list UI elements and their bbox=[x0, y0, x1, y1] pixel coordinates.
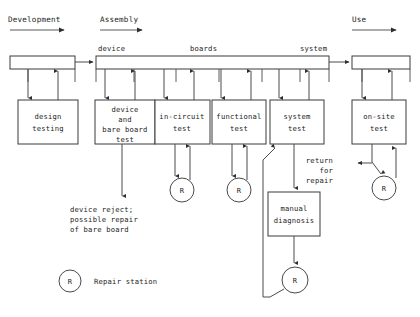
device-reject-note: device reject; possible repair of bare b… bbox=[70, 144, 138, 234]
flow-diagram-canvas: Development Assembly Use device boards s… bbox=[0, 0, 420, 317]
arrow-on-site-to-repair bbox=[372, 144, 381, 174]
return-for-repair-line-0: return bbox=[306, 156, 333, 165]
bar-box-connectors bbox=[28, 69, 392, 100]
repair-node-system-label: R bbox=[293, 277, 298, 285]
phase-label-development: Development bbox=[8, 15, 61, 24]
device-bare-board-label-3: test bbox=[116, 135, 134, 144]
functional-test-box: functional test bbox=[212, 100, 266, 144]
phase-headings: Development Assembly Use bbox=[8, 15, 396, 30]
process-bars bbox=[10, 56, 410, 82]
device-bare-board-label-1: and bbox=[118, 115, 132, 124]
on-site-test-label-1: test bbox=[370, 124, 388, 133]
system-test-box: system test bbox=[270, 100, 324, 144]
device-reject-line-0: device reject; bbox=[70, 205, 133, 214]
bar-label-boards: boards bbox=[190, 44, 217, 53]
device-bare-board-label-2: bare board bbox=[102, 125, 147, 134]
system-test-label-0: system bbox=[283, 112, 310, 121]
on-site-test-box: on-site test bbox=[352, 100, 406, 144]
legend-repair-station: R Repair station bbox=[59, 270, 157, 292]
bar-labels: device boards system bbox=[98, 44, 327, 53]
device-bare-board-box: device and bare board test bbox=[95, 100, 155, 144]
device-bare-board-label-0: device bbox=[111, 105, 138, 114]
functional-test-label-0: functional bbox=[216, 112, 261, 121]
assembly-bar bbox=[96, 56, 329, 69]
legend-repair-station-text: Repair station bbox=[94, 277, 157, 286]
manual-diagnosis-label-0: manual bbox=[280, 204, 307, 213]
system-test-label-1: test bbox=[288, 124, 306, 133]
design-testing-label-0: design bbox=[34, 112, 61, 121]
return-for-repair-line-2: repair bbox=[306, 176, 334, 185]
phase-label-assembly: Assembly bbox=[100, 15, 138, 24]
development-bar bbox=[10, 56, 75, 69]
device-reject-line-1: possible repair bbox=[70, 215, 138, 224]
manual-diagnosis-box: manual diagnosis bbox=[268, 192, 320, 236]
repair-node-in-circuit-label: R bbox=[180, 187, 185, 195]
in-circuit-test-label-1: test bbox=[173, 124, 191, 133]
test-flow-diagram: Development Assembly Use device boards s… bbox=[0, 0, 420, 317]
functional-test-label-1: test bbox=[230, 124, 248, 133]
repair-loops: R R bbox=[170, 144, 251, 202]
design-testing-box: design testing bbox=[18, 100, 78, 144]
bar-label-system: system bbox=[300, 44, 327, 53]
use-bar bbox=[352, 56, 410, 69]
phase-label-use: Use bbox=[352, 15, 367, 24]
device-reject-line-2: of bare board bbox=[70, 225, 129, 234]
manual-diagnosis-label-1: diagnosis bbox=[274, 216, 315, 225]
bar-label-device: device bbox=[98, 44, 125, 53]
repair-node-functional-label: R bbox=[237, 187, 242, 195]
repair-node-on-site-label: R bbox=[382, 185, 387, 193]
design-testing-label-1: testing bbox=[32, 124, 64, 133]
on-site-test-label-0: on-site bbox=[363, 112, 395, 121]
legend-repair-icon-label: R bbox=[68, 278, 73, 286]
return-for-repair-line-1: for bbox=[319, 166, 333, 175]
in-circuit-test-box: in-circuit test bbox=[155, 100, 210, 144]
in-circuit-test-label-0: in-circuit bbox=[159, 112, 204, 121]
